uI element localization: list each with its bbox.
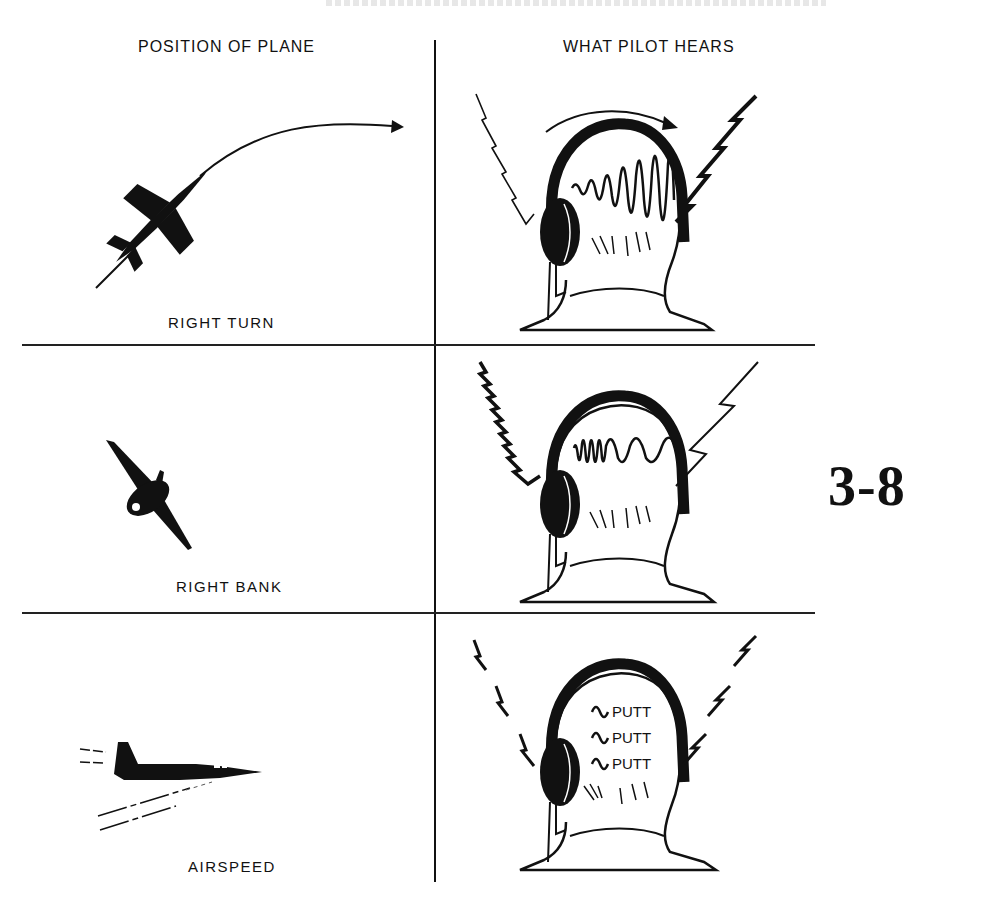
putt-text-3: PUTT — [612, 755, 651, 772]
figure-number: 3-8 — [828, 454, 906, 518]
putt-text-2: PUTT — [612, 729, 651, 746]
putt-text-1: PUTT — [612, 703, 651, 720]
